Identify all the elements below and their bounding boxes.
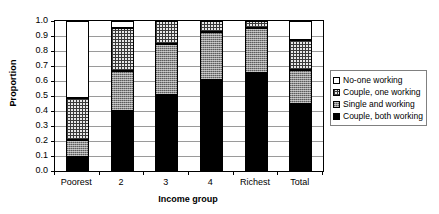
y-tick-label: 0.5	[35, 91, 48, 100]
bar-segment[interactable]	[200, 21, 223, 32]
bar-segment[interactable]	[66, 140, 89, 157]
bar-segment[interactable]	[111, 21, 134, 28]
bar-segment[interactable]	[245, 21, 268, 28]
y-tick-label: 0.1	[35, 151, 48, 160]
bar-segment[interactable]	[66, 21, 89, 98]
bar-total[interactable]	[289, 21, 312, 171]
legend-label: No-one working	[343, 75, 403, 85]
x-axis-tick-labels: Poorest234RichestTotal	[54, 177, 322, 191]
bar-segment[interactable]	[155, 95, 178, 172]
bar-2[interactable]	[111, 21, 134, 171]
x-tick-label: 3	[163, 177, 168, 188]
x-tick-mark	[188, 171, 189, 175]
bar-segment[interactable]	[245, 73, 268, 171]
bar-group	[55, 21, 323, 171]
bar-poorest[interactable]	[66, 21, 89, 171]
legend-swatch-icon	[333, 89, 340, 96]
stacked-bar-chart: Proportion 0.00.10.20.30.40.50.60.70.80.…	[0, 0, 439, 214]
legend-label: Single and working	[343, 99, 415, 109]
y-axis-title: Proportion	[8, 48, 18, 118]
bar-segment[interactable]	[289, 70, 312, 105]
bar-segment[interactable]	[200, 80, 223, 172]
legend-label: Couple, both working	[343, 111, 423, 121]
chart-legend: No-one workingCouple, one workingSingle …	[330, 70, 427, 126]
x-tick-label: 4	[208, 177, 213, 188]
bar-segment[interactable]	[200, 32, 223, 79]
x-tick-label: Richest	[240, 177, 270, 188]
y-tick-label: 0.4	[35, 106, 48, 115]
bar-segment[interactable]	[155, 21, 178, 44]
bar-segment[interactable]	[111, 28, 134, 71]
y-tick-label: 1.0	[35, 16, 48, 25]
legend-swatch-icon	[333, 113, 340, 120]
x-tick-label: Total	[290, 177, 309, 188]
x-axis-title: Income group	[54, 194, 322, 204]
bar-segment[interactable]	[111, 111, 134, 171]
legend-swatch-icon	[333, 101, 340, 108]
y-tick-label: 0.3	[35, 121, 48, 130]
x-tick-label: 2	[118, 177, 123, 188]
legend-label: Couple, one working	[343, 87, 421, 97]
x-tick-mark	[143, 171, 144, 175]
bar-segment[interactable]	[245, 28, 268, 73]
bar-4[interactable]	[200, 21, 223, 171]
y-tick-label: 0.7	[35, 61, 48, 70]
bar-segment[interactable]	[155, 44, 178, 94]
bar-segment[interactable]	[289, 21, 312, 40]
legend-swatch-icon	[333, 77, 340, 84]
y-tick-label: 0.9	[35, 31, 48, 40]
bar-segment[interactable]	[289, 104, 312, 171]
x-tick-label: Poorest	[61, 177, 92, 188]
x-tick-mark	[54, 171, 55, 175]
legend-item[interactable]: Couple, one working	[333, 86, 423, 98]
plot-area	[54, 20, 324, 172]
legend-item[interactable]: No-one working	[333, 74, 423, 86]
y-tick-label: 0.8	[35, 46, 48, 55]
y-axis-tick-labels: 0.00.10.20.30.40.50.60.70.80.91.0	[22, 20, 50, 170]
y-tick-label: 0.2	[35, 136, 48, 145]
x-tick-mark	[277, 171, 278, 175]
bar-richest[interactable]	[245, 21, 268, 171]
bar-3[interactable]	[155, 21, 178, 171]
y-tick-label: 0.6	[35, 76, 48, 85]
bar-segment[interactable]	[289, 40, 312, 70]
x-tick-mark	[99, 171, 100, 175]
x-tick-mark	[322, 171, 323, 175]
x-tick-mark	[233, 171, 234, 175]
bar-segment[interactable]	[66, 98, 89, 141]
bar-segment[interactable]	[111, 71, 134, 112]
legend-item[interactable]: Couple, both working	[333, 110, 423, 122]
legend-item[interactable]: Single and working	[333, 98, 423, 110]
bar-segment[interactable]	[66, 157, 89, 171]
y-tick-label: 0.0	[35, 166, 48, 175]
